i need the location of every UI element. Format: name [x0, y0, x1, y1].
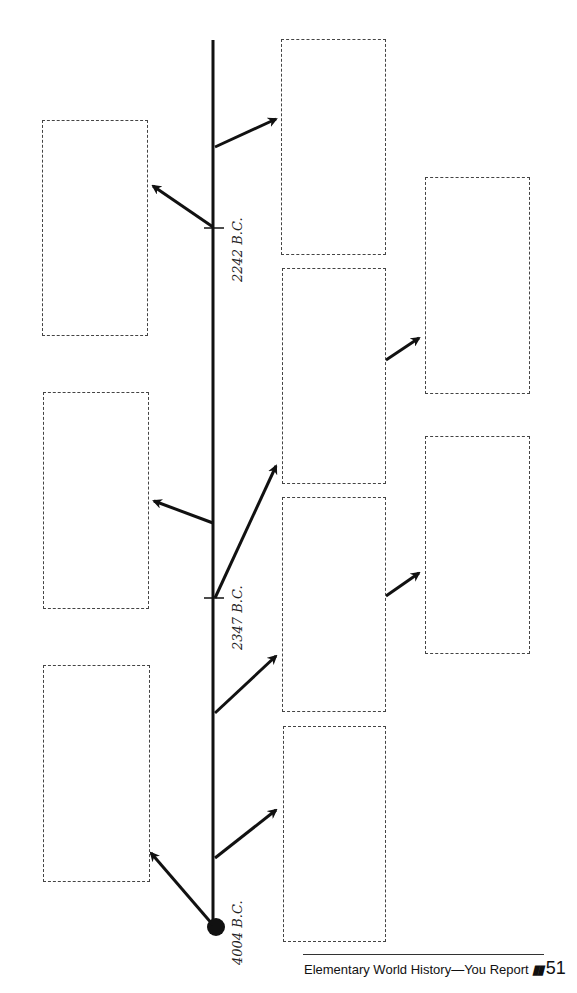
event-box-right-top[interactable]: [425, 177, 530, 394]
arrow-far-right-1: [386, 338, 419, 360]
footer-title: Elementary World History—You Report: [304, 962, 529, 977]
event-box-center-3[interactable]: [282, 497, 386, 712]
event-box-right-bottom[interactable]: [425, 436, 530, 654]
arrow-left-2: [154, 501, 213, 523]
event-box-left-middle[interactable]: [43, 392, 149, 609]
arrow-left-1: [151, 853, 213, 925]
arrow-right-1: [215, 810, 276, 858]
arrow-right-3: [215, 466, 276, 598]
date-label-2242: 2242 B.C.: [230, 217, 245, 282]
event-box-left-top[interactable]: [42, 120, 148, 336]
arrow-left-3: [153, 186, 213, 227]
footer-rule: [303, 954, 544, 955]
footer-marks-icon: ▮▮: [532, 962, 542, 977]
event-box-center-2[interactable]: [282, 268, 386, 484]
arrow-right-2: [215, 656, 276, 713]
date-label-4004: 4004 B.C.: [230, 900, 245, 965]
event-box-center-4[interactable]: [283, 726, 386, 942]
footer: Elementary World History—You Report▮▮51: [304, 958, 566, 979]
date-label-2347: 2347 B.C.: [230, 585, 245, 650]
arrow-right-4: [215, 119, 276, 147]
event-box-left-bottom[interactable]: [43, 665, 150, 882]
event-box-center-1[interactable]: [281, 39, 386, 255]
arrow-far-right-2: [386, 573, 419, 596]
page-number: 51: [546, 958, 566, 978]
